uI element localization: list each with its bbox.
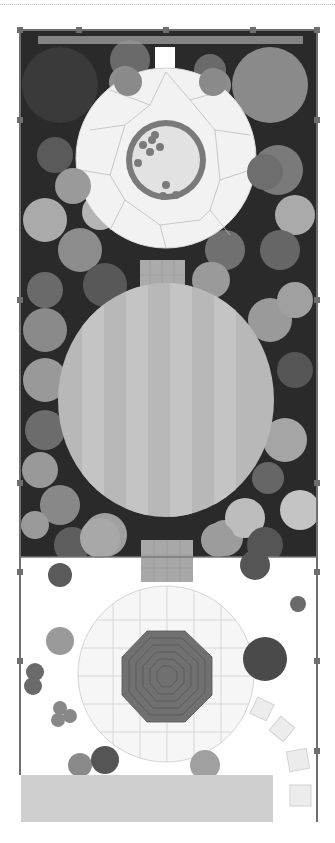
gravel-strip: [21, 775, 273, 822]
garden-plan: [0, 0, 335, 843]
brick-path-lower: [141, 540, 193, 582]
pond: [126, 120, 206, 200]
octagonal-deck: [122, 631, 212, 722]
oval-lawn: [58, 283, 274, 517]
top-hedge: [38, 36, 303, 44]
gate-block: [155, 47, 175, 68]
